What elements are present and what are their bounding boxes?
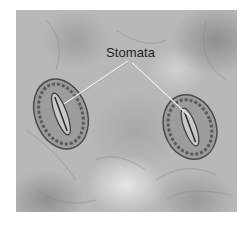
leader-line-left (64, 61, 128, 104)
leader-lines (0, 0, 251, 228)
stomata-label: Stomata (106, 45, 155, 60)
leader-line-right (132, 63, 190, 117)
